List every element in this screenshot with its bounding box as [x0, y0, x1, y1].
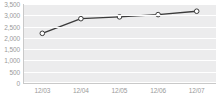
x-axis: 12/0312/0412/0512/0612/07: [23, 86, 216, 100]
gridline: [23, 38, 216, 39]
data-point-marker[interactable]: [40, 31, 45, 36]
x-axis-tick-label: 12/07: [189, 86, 205, 95]
x-axis-tick-label: 12/06: [150, 86, 166, 95]
y-axis-tick-label: 2,000: [4, 34, 20, 41]
x-axis-tick-label: 12/05: [112, 86, 128, 95]
gridline: [23, 15, 216, 16]
y-axis-tick-label: 1,500: [4, 46, 20, 53]
x-axis-rule: [23, 83, 216, 84]
data-point-marker[interactable]: [194, 9, 199, 14]
y-axis-rule: [23, 4, 24, 83]
y-axis-tick-label: 1,000: [4, 57, 20, 64]
gridline: [23, 60, 216, 61]
y-axis-tick-label: 0: [16, 80, 20, 87]
y-axis-tick-label: 3,500: [4, 1, 20, 8]
x-axis-tick-label: 12/03: [34, 86, 50, 95]
gridline: [23, 49, 216, 50]
y-axis-tick-label: 500: [9, 68, 20, 75]
y-axis: 05001,0001,5002,0002,5003,0003,500: [0, 0, 22, 101]
data-point-marker[interactable]: [79, 16, 84, 21]
line-chart: 05001,0001,5002,0002,5003,0003,500 12/03…: [0, 0, 218, 101]
gridline: [23, 27, 216, 28]
gridline: [23, 72, 216, 73]
gridline: [23, 4, 216, 5]
x-axis-tick-label: 12/04: [73, 86, 89, 95]
y-axis-tick-label: 3,000: [4, 12, 20, 19]
y-axis-tick-label: 2,500: [4, 23, 20, 30]
plot-area: [23, 4, 216, 83]
